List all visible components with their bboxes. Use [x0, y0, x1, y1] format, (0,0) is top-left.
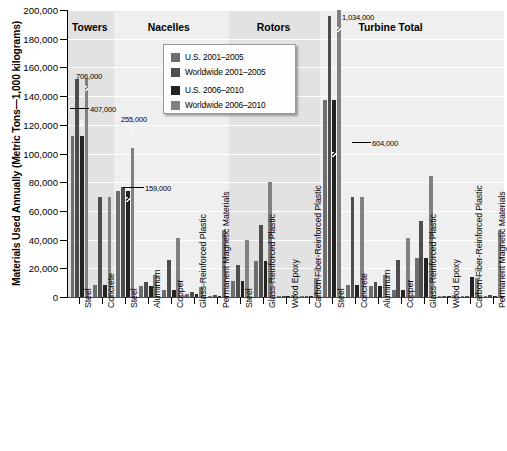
- bar: [98, 197, 102, 297]
- group-label: Nacelles: [148, 22, 190, 33]
- bar: [392, 290, 396, 297]
- x-tick-label: Steel: [83, 288, 93, 308]
- legend-swatch: [171, 101, 180, 110]
- broken-bar-mark: [337, 27, 341, 32]
- bar: [236, 265, 240, 297]
- annotation-leader-line: [70, 108, 89, 109]
- legend-swatch: [171, 53, 180, 62]
- broken-bar-mark: [332, 152, 336, 157]
- legend-label: Worldwide 2001–2005: [185, 67, 266, 77]
- y-tick-label: 180,000: [23, 33, 58, 44]
- bar: [139, 286, 143, 297]
- bar: [415, 258, 419, 297]
- y-tick-label: 160,000: [23, 62, 58, 73]
- x-tick-label: Glass-Reinforced Plastic: [198, 214, 208, 308]
- gridline: [68, 39, 504, 40]
- value-annotation: 1,034,000: [342, 13, 374, 22]
- annotation-leader-line: [352, 142, 371, 143]
- x-tick-label: Aluminum: [152, 270, 162, 308]
- legend-label: Worldwide 2006–2010: [185, 100, 266, 110]
- bar: [374, 282, 378, 297]
- x-tick-label: Steel: [129, 288, 139, 308]
- group-label: Rotors: [257, 22, 290, 33]
- y-axis: 200,000180,000160,000140,000120,000100,0…: [0, 10, 68, 297]
- legend-swatch: [171, 86, 180, 95]
- gridline: [68, 125, 504, 126]
- bar: [116, 191, 120, 297]
- y-tick-label: 60,000: [29, 205, 58, 216]
- y-tick-label: 200,000: [23, 5, 58, 16]
- x-tick-label: Carbon-Fiber-Reinforced Plastic: [313, 185, 323, 308]
- legend: U.S. 2001–2005Worldwide 2001–2005U.S. 20…: [163, 44, 296, 114]
- bar: [328, 16, 332, 297]
- bar: [121, 187, 125, 297]
- bar: [126, 191, 130, 297]
- legend-item: Worldwide 2001–2005: [171, 66, 266, 78]
- y-tick-label: 20,000: [29, 263, 58, 274]
- bar: [75, 79, 79, 297]
- value-annotation: 255,000: [121, 115, 147, 124]
- x-tick-label: Wood Epoxy: [290, 259, 300, 308]
- x-tick-label: Wood Epoxy: [451, 259, 461, 308]
- bar: [131, 148, 135, 297]
- bar: [323, 100, 327, 297]
- legend-label: U.S. 2006–2010: [185, 85, 244, 95]
- broken-bar-mark: [126, 197, 130, 202]
- y-tick-label: 100,000: [23, 148, 58, 159]
- bar: [254, 261, 258, 297]
- group-label: Towers: [72, 22, 108, 33]
- bar: [351, 197, 355, 297]
- bar: [419, 221, 423, 297]
- bar: [346, 285, 350, 297]
- bar: [167, 260, 171, 297]
- gridline: [68, 10, 504, 11]
- x-tick-label: Aluminum: [382, 270, 392, 308]
- x-axis-labels: SteelConcreteSteelAluminumCopperGlass-Re…: [0, 300, 505, 451]
- y-tick-label: 140,000: [23, 91, 58, 102]
- bar: [85, 79, 89, 297]
- x-tick-label: Steel: [244, 288, 254, 308]
- x-tick-label: Glass-Reinforced Plastic: [267, 214, 277, 308]
- x-tick-label: Permanent Magnetic Materials: [497, 192, 507, 309]
- legend-swatch: [171, 68, 180, 77]
- bar: [71, 136, 75, 297]
- bar: [369, 286, 373, 297]
- y-tick-label: 80,000: [29, 177, 58, 188]
- value-annotation: 159,000: [145, 184, 171, 193]
- legend-item: U.S. 2001–2005: [171, 51, 244, 63]
- bar: [162, 290, 166, 297]
- bar: [337, 10, 341, 297]
- bar: [144, 282, 148, 297]
- x-tick-label: Carbon-Fiber-Reinforced Plastic: [474, 185, 484, 308]
- x-tick-label: Concrete: [359, 273, 369, 308]
- x-tick-label: Copper: [405, 280, 415, 308]
- bar: [231, 281, 235, 298]
- value-annotation: 604,000: [372, 139, 398, 148]
- y-tick-label: 120,000: [23, 119, 58, 130]
- legend-label: U.S. 2001–2005: [185, 52, 244, 62]
- x-tick-label: Glass-Reinforced Plastic: [428, 214, 438, 308]
- group-label: Turbine Total: [358, 22, 422, 33]
- bar: [396, 260, 400, 297]
- bar: [80, 136, 84, 297]
- bar: [93, 285, 97, 297]
- broken-bar-mark: [131, 128, 135, 133]
- x-tick-label: Copper: [175, 280, 185, 308]
- bar: [259, 225, 263, 297]
- broken-bar-mark: [80, 120, 84, 125]
- x-tick-label: Steel: [336, 288, 346, 308]
- bar: [332, 100, 336, 297]
- annotation-leader-line: [123, 187, 144, 188]
- legend-item: Worldwide 2006–2010: [171, 99, 266, 111]
- x-tick-label: Concrete: [106, 273, 116, 308]
- x-tick-label: Permanent Magnetic Materials: [221, 192, 231, 309]
- broken-bar-mark: [85, 86, 89, 91]
- y-tick-label: 40,000: [29, 234, 58, 245]
- legend-item: U.S. 2006–2010: [171, 84, 244, 96]
- value-annotation: 407,000: [90, 105, 116, 114]
- value-annotation: 706,000: [76, 72, 102, 81]
